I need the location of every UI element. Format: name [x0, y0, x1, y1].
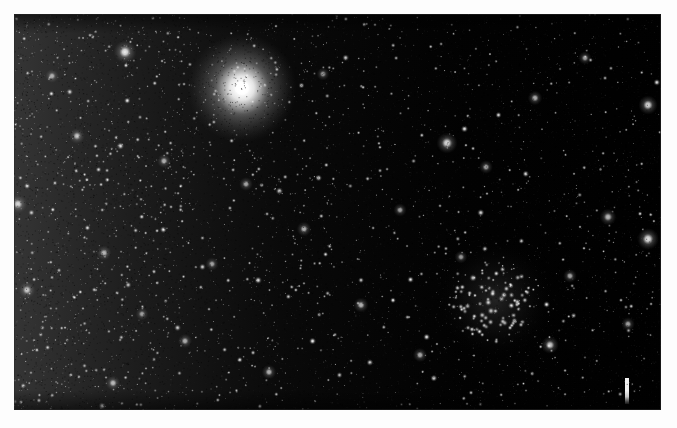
star-field-canvas	[14, 14, 661, 410]
screenshot-root	[0, 0, 677, 428]
astrophotograph	[14, 14, 661, 410]
